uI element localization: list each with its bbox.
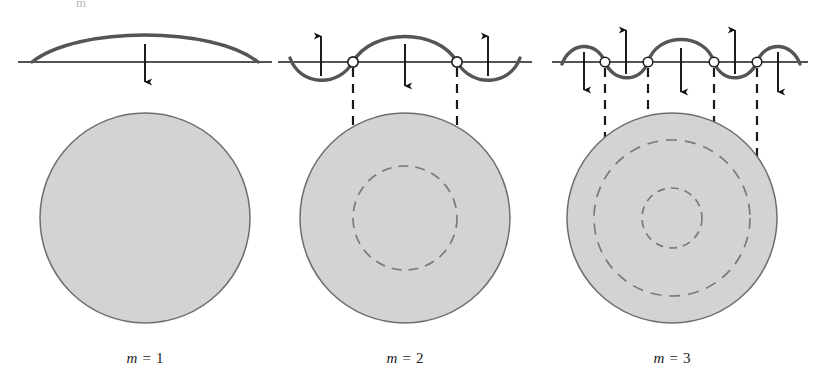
node-marker-m3-2 <box>643 57 653 67</box>
node-marker-m3-1 <box>600 57 610 67</box>
panel-m3-wave-group <box>552 30 808 92</box>
panel-m2-wave-group <box>278 36 532 86</box>
figure-root: m m=1 <box>0 0 817 385</box>
node-marker-m3-3 <box>709 57 719 67</box>
vibration-modes-diagram: m=1 m=2 <box>0 0 817 385</box>
panel-label-m3-value: 3 <box>683 350 691 366</box>
panel-label-m3: m=3 <box>654 350 691 366</box>
panel-label-m3-eq: = <box>669 350 677 366</box>
panel-label-m1-eq: = <box>142 350 150 366</box>
membrane-disk-m3 <box>567 113 777 323</box>
panel-m2: m=2 <box>278 36 532 366</box>
node-marker-m2-1 <box>348 57 358 67</box>
panel-label-m2-var: m <box>387 350 398 366</box>
panel-label-m2-eq: = <box>402 350 410 366</box>
panel-label-m1-var: m <box>127 350 138 366</box>
panel-label-m1: m=1 <box>127 350 164 366</box>
panel-label-m3-var: m <box>654 350 665 366</box>
panel-m2-disk-group <box>300 113 510 323</box>
panel-label-m2: m=2 <box>387 350 424 366</box>
panel-label-m1-value: 1 <box>156 350 164 366</box>
panel-label-m2-value: 2 <box>416 350 424 366</box>
panel-m1-wave-group <box>18 35 272 82</box>
panel-m1-disk-group <box>40 113 250 323</box>
node-marker-m2-2 <box>452 57 462 67</box>
clipped-top-text: m <box>76 0 87 11</box>
node-marker-m3-4 <box>752 57 762 67</box>
membrane-disk-m2 <box>300 113 510 323</box>
panel-m1: m=1 <box>18 35 272 366</box>
panel-m3-disk-group <box>567 113 777 323</box>
membrane-disk-m1 <box>40 113 250 323</box>
panel-m3: m=3 <box>552 30 808 366</box>
